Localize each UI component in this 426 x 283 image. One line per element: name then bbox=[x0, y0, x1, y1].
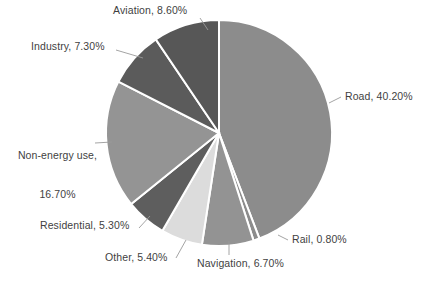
leader-line-other bbox=[176, 240, 186, 258]
pie-label-road: Road, 40.20% bbox=[345, 90, 413, 103]
pie-slices bbox=[106, 20, 332, 246]
pie-label-non-energy-use: Non-energy use, 16.70% bbox=[10, 123, 105, 227]
pie-chart-figure: Aviation, 8.60% Industry, 7.30% Non-ener… bbox=[0, 0, 426, 283]
pie-label-rail: Rail, 0.80% bbox=[292, 233, 347, 246]
leader-line-rail bbox=[278, 235, 288, 240]
pie-label-residential: Residential, 5.30% bbox=[40, 219, 129, 232]
pie-label-non-energy-use-line2: 16.70% bbox=[10, 188, 105, 201]
pie-label-industry: Industry, 7.30% bbox=[31, 40, 105, 53]
pie-label-other: Other, 5.40% bbox=[105, 251, 168, 264]
pie-label-non-energy-use-line1: Non-energy use, bbox=[10, 149, 105, 162]
pie-label-navigation: Navigation, 6.70% bbox=[197, 257, 284, 270]
pie-label-aviation: Aviation, 8.60% bbox=[113, 4, 187, 17]
leader-line-road bbox=[329, 97, 341, 103]
